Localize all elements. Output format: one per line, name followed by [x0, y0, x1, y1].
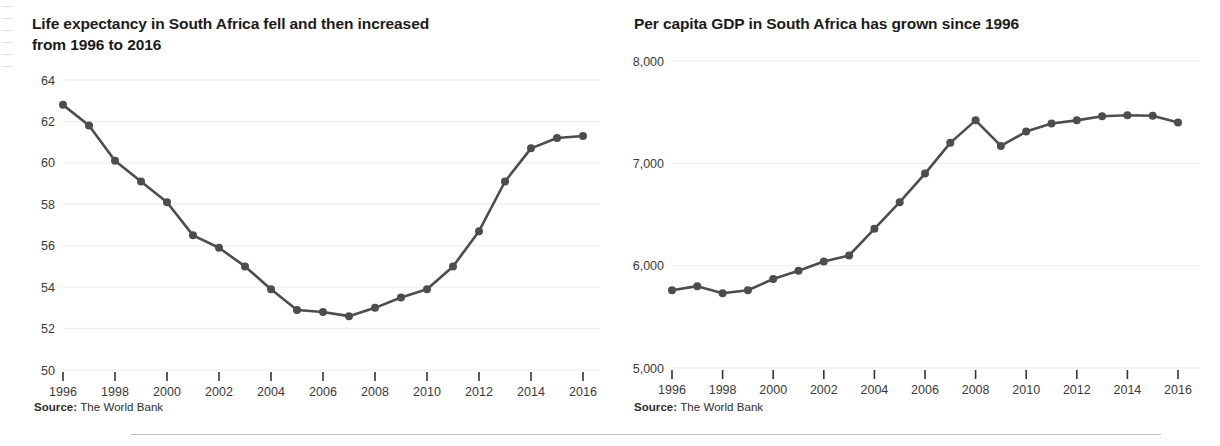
- source-label-left: Source:: [34, 401, 77, 413]
- x-axis-tick-label: 2014: [1113, 383, 1141, 397]
- data-point-marker: [137, 178, 145, 186]
- data-point-marker: [997, 142, 1005, 150]
- line-chart-life-expectancy: 5052545658606264199619982000200220042006…: [0, 0, 610, 446]
- x-axis-tick-label: 1996: [658, 383, 686, 397]
- data-point-marker: [921, 170, 929, 178]
- bottom-divider: [131, 434, 1161, 435]
- y-axis-tick-label: 8,000: [633, 55, 664, 69]
- source-value-right: The World Bank: [680, 401, 763, 413]
- y-axis-tick-label: 50: [41, 364, 55, 378]
- x-axis-tick-label: 2016: [1164, 383, 1192, 397]
- data-point-marker: [241, 262, 249, 270]
- source-note-left: Source: The World Bank: [34, 401, 163, 413]
- chart-panel-per-capita-gdp: Per capita GDP in South Africa has grown…: [610, 0, 1220, 446]
- data-point-marker: [449, 262, 457, 270]
- chart-panel-life-expectancy: Life expectancy in South Africa fell and…: [0, 0, 610, 446]
- data-point-marker: [896, 198, 904, 206]
- data-point-marker: [668, 286, 676, 294]
- data-point-marker: [1098, 112, 1106, 120]
- x-axis-tick-label: 2012: [1063, 383, 1091, 397]
- source-label-right: Source:: [634, 401, 677, 413]
- x-axis-tick-label: 2004: [257, 385, 285, 399]
- data-point-marker: [163, 198, 171, 206]
- per-capita-gdp-plot-svg: 5,0006,0007,0008,00019961998200020022004…: [610, 0, 1220, 446]
- x-axis-tick-label: 2002: [205, 385, 233, 399]
- y-axis-tick-label: 62: [41, 115, 55, 129]
- data-point-marker: [870, 225, 878, 233]
- data-point-marker: [1022, 128, 1030, 136]
- data-point-marker: [1174, 118, 1182, 126]
- data-point-marker: [527, 144, 535, 152]
- x-axis-tick-label: 2010: [413, 385, 441, 399]
- data-point-marker: [769, 275, 777, 283]
- series-line: [672, 115, 1178, 293]
- data-point-marker: [397, 294, 405, 302]
- x-axis-tick-label: 2004: [860, 383, 888, 397]
- x-axis-tick-label: 2012: [465, 385, 493, 399]
- data-point-marker: [795, 267, 803, 275]
- data-point-marker: [744, 286, 752, 294]
- figure-board: Life expectancy in South Africa fell and…: [0, 0, 1220, 446]
- x-axis-tick-label: 1998: [709, 383, 737, 397]
- data-point-marker: [85, 122, 93, 130]
- data-point-marker: [215, 244, 223, 252]
- x-axis-tick-label: 2002: [810, 383, 838, 397]
- line-chart-per-capita-gdp: 5,0006,0007,0008,00019961998200020022004…: [610, 0, 1220, 446]
- source-value-left: The World Bank: [80, 401, 163, 413]
- data-point-marker: [1048, 119, 1056, 127]
- x-axis-tick-label: 2000: [759, 383, 787, 397]
- y-axis-tick-label: 54: [41, 281, 55, 295]
- x-axis-tick-label: 2006: [309, 385, 337, 399]
- x-axis-tick-label: 2014: [517, 385, 545, 399]
- data-point-marker: [501, 178, 509, 186]
- data-point-marker: [59, 101, 67, 109]
- data-point-marker: [319, 308, 327, 316]
- data-point-marker: [1149, 112, 1157, 120]
- x-axis-tick-label: 2010: [1012, 383, 1040, 397]
- data-point-marker: [1073, 116, 1081, 124]
- data-point-marker: [693, 282, 701, 290]
- x-axis-tick-label: 2000: [153, 385, 181, 399]
- data-point-marker: [845, 251, 853, 259]
- data-point-marker: [579, 132, 587, 140]
- x-axis-tick-label: 2016: [569, 385, 597, 399]
- data-point-marker: [1123, 111, 1131, 119]
- y-axis-tick-label: 64: [41, 74, 55, 88]
- data-point-marker: [553, 134, 561, 142]
- data-point-marker: [719, 289, 727, 297]
- data-point-marker: [111, 157, 119, 165]
- y-axis-tick-label: 52: [41, 322, 55, 336]
- y-axis-tick-label: 7,000: [633, 157, 664, 171]
- source-note-right: Source: The World Bank: [634, 401, 763, 413]
- data-point-marker: [946, 139, 954, 147]
- x-axis-tick-label: 2008: [361, 385, 389, 399]
- y-axis-tick-label: 56: [41, 239, 55, 253]
- data-point-marker: [189, 231, 197, 239]
- y-axis-tick-label: 60: [41, 156, 55, 170]
- x-axis-tick-label: 1998: [101, 385, 129, 399]
- data-point-marker: [475, 227, 483, 235]
- data-point-marker: [423, 285, 431, 293]
- life-expectancy-plot-svg: 5052545658606264199619982000200220042006…: [0, 0, 610, 446]
- data-point-marker: [293, 306, 301, 314]
- x-axis-tick-label: 1996: [49, 385, 77, 399]
- data-point-marker: [267, 285, 275, 293]
- x-axis-tick-label: 2008: [962, 383, 990, 397]
- x-axis-tick-label: 2006: [911, 383, 939, 397]
- y-axis-tick-label: 6,000: [633, 259, 664, 273]
- y-axis-tick-label: 5,000: [633, 362, 664, 376]
- data-point-marker: [820, 258, 828, 266]
- data-point-marker: [972, 116, 980, 124]
- data-point-marker: [371, 304, 379, 312]
- data-point-marker: [345, 312, 353, 320]
- series-line: [63, 105, 583, 316]
- y-axis-tick-label: 58: [41, 198, 55, 212]
